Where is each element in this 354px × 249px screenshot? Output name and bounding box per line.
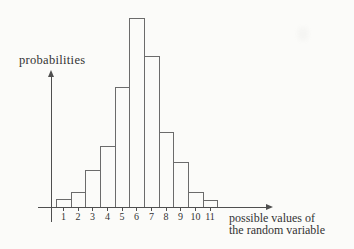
bar-5	[115, 87, 130, 207]
y-axis-label: probabilities	[19, 53, 85, 68]
x-tick-label-6: 6	[129, 211, 145, 222]
y-axis-arrowhead-icon	[48, 70, 54, 77]
bar-11	[203, 200, 218, 207]
bar-2	[71, 192, 86, 207]
x-axis-caption-line2: the random variable	[229, 225, 325, 237]
bar-8	[159, 132, 174, 207]
bar-6	[129, 18, 145, 207]
bar-4	[100, 146, 116, 207]
bar-3	[85, 170, 101, 207]
scan-smudge	[297, 27, 309, 41]
bar-9	[173, 162, 189, 207]
bar-7	[144, 56, 160, 207]
x-tick-label-9: 9	[173, 211, 189, 222]
bar-1	[56, 199, 72, 207]
x-tick-label-11: 11	[202, 211, 218, 222]
y-axis-line	[51, 77, 52, 222]
x-axis-arrowhead-icon	[266, 204, 273, 210]
figure-canvas: probabilities 1234567891011 possible val…	[0, 0, 354, 249]
x-tick-label-3: 3	[85, 211, 101, 222]
x-axis-caption: possible values of the random variable	[229, 213, 325, 236]
bar-10	[188, 192, 204, 207]
x-axis-line	[38, 207, 266, 208]
